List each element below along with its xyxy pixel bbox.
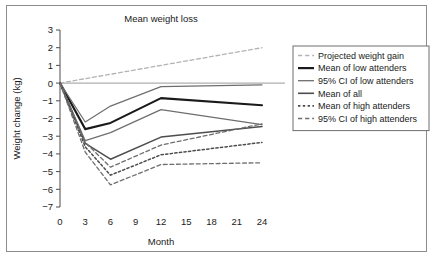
legend-label: 95% CI of low attenders <box>318 76 414 86</box>
y-axis-tick-label: −7 <box>42 201 53 212</box>
chart-plot-area: 3210−1−2−3−4−5−6−703691215182124 Mean we… <box>0 0 433 257</box>
legend-label: 95% CI of high attenders <box>318 114 418 124</box>
x-axis-tick-label: 3 <box>83 216 88 227</box>
legend-label: Mean of high attenders <box>318 101 411 111</box>
y-axis-tick-label: 0 <box>48 78 53 89</box>
legend-label: Mean of low attenders <box>318 63 407 73</box>
series-line <box>60 83 262 129</box>
x-axis-tick-label: 24 <box>257 216 268 227</box>
y-axis-tick-label: −6 <box>42 184 53 195</box>
line-chart: 3210−1−2−3−4−5−6−703691215182124 Mean we… <box>0 0 433 257</box>
x-axis-tick-label: 21 <box>231 216 242 227</box>
x-axis-tick-label: 6 <box>108 216 113 227</box>
y-axis-label: Weight change (kg) <box>11 77 22 159</box>
series-line <box>60 48 262 83</box>
y-axis-tick-label: 2 <box>48 42 53 53</box>
series-line <box>60 83 262 159</box>
series-line <box>60 83 262 141</box>
x-axis-tick-label: 9 <box>133 216 138 227</box>
chart-title: Mean weight loss <box>124 13 198 24</box>
y-axis-tick-label: −5 <box>42 166 53 177</box>
x-axis-label: Month <box>148 236 174 247</box>
x-axis-tick-label: 12 <box>156 216 167 227</box>
legend-label: Projected weight gain <box>318 51 404 61</box>
y-axis-tick-label: −3 <box>42 131 53 142</box>
y-axis-tick-label: 3 <box>48 24 53 35</box>
series-group <box>60 48 262 185</box>
legend-label: Mean of all <box>318 89 362 99</box>
labels-group: Mean weight lossMonthWeight change (kg) <box>11 13 198 247</box>
y-axis-tick-label: 1 <box>48 60 53 71</box>
x-axis-tick-label: 15 <box>181 216 192 227</box>
y-axis-tick-label: −1 <box>42 95 53 106</box>
figure-container: 3210−1−2−3−4−5−6−703691215182124 Mean we… <box>0 0 433 257</box>
y-axis-tick-label: −2 <box>42 113 53 124</box>
x-axis-tick-label: 18 <box>206 216 217 227</box>
x-axis-tick-label: 0 <box>57 216 62 227</box>
y-axis-tick-label: −4 <box>42 148 53 159</box>
legend-group: Projected weight gainMean of low attende… <box>293 46 429 131</box>
